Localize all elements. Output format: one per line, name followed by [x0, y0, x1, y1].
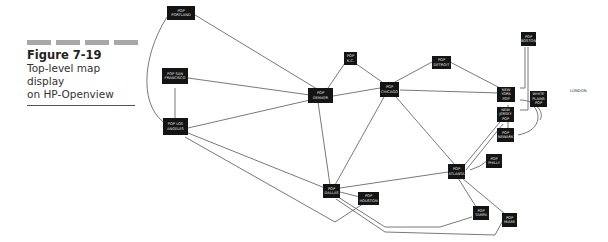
link-dallas-houston — [340, 192, 360, 197]
link-denver-chicago — [333, 88, 380, 96]
node-pop-newark[interactable]: POP NEWARK — [497, 128, 514, 142]
node-new-york-pop[interactable]: NEW YORK POP — [497, 87, 515, 102]
link-boston-ny-1 — [520, 47, 525, 88]
network-links — [0, 0, 608, 242]
link-chicago-ny — [400, 90, 500, 93]
node-pop-tampa[interactable]: POP TAMPA — [473, 206, 489, 220]
link-chicago-atlanta — [396, 97, 455, 165]
link-la-denver — [188, 100, 310, 128]
node-pop-atlanta[interactable]: POP ATLANTA — [448, 164, 465, 179]
node-pop-chicago[interactable]: POP CHICAGO — [380, 82, 399, 97]
node-new-jersey-pop[interactable]: NEW JERSEY POP — [497, 107, 514, 122]
node-pop-detroit[interactable]: POP DETROIT — [432, 56, 451, 69]
link-atlanta-dallas — [340, 172, 448, 188]
node-pop-san-francisco[interactable]: POP SAN FRANCISCO — [162, 68, 188, 84]
node-pop-kc[interactable]: POP K.C. — [344, 52, 357, 65]
node-pop-los-angeles[interactable]: POP LOS ANGELES — [163, 118, 188, 135]
node-pop-philly[interactable]: POP PHILLY — [486, 154, 502, 168]
label-london: LONDON — [570, 88, 587, 93]
node-pop-dallas[interactable]: POP DALLAS — [323, 184, 340, 198]
link-la-houston — [185, 137, 372, 222]
node-pop-houston[interactable]: POP HOUSTON — [358, 192, 379, 205]
link-detroit-ny — [450, 62, 500, 88]
node-pop-denver[interactable]: POP DENVER — [308, 88, 333, 103]
link-chicago-detroit — [395, 62, 432, 82]
node-white-plains-pop[interactable]: WHITE PLAINS POP — [530, 91, 547, 107]
link-chicago-dallas — [335, 97, 384, 185]
link-denver-kc — [328, 63, 345, 88]
node-pop-boston[interactable]: POP BOSTON — [521, 32, 536, 46]
link-kc-chicago — [355, 63, 382, 82]
link-sf-denver — [188, 78, 310, 95]
link-la-dallas — [188, 133, 325, 188]
link-portland-denver — [195, 15, 322, 92]
node-pop-portland[interactable]: POP PORTLAND — [167, 6, 195, 20]
node-pop-miami[interactable]: POP MIAMI — [502, 213, 517, 227]
link-denver-dallas — [318, 102, 330, 185]
